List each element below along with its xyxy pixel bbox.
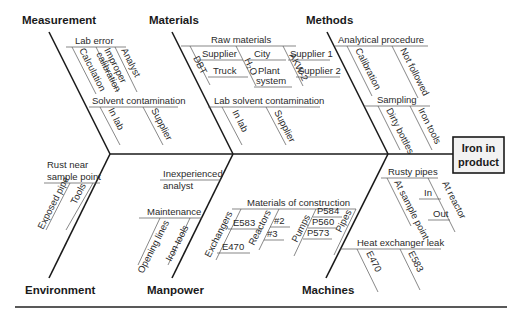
cause-lab-error: Lab error (75, 35, 114, 46)
category-measurement: Measurement (22, 14, 96, 26)
category-machines: Machines (302, 284, 354, 296)
cause-analytical-procedure: Analytical procedure (338, 34, 424, 45)
cause-sampling: Sampling (377, 94, 417, 105)
cause-supplier: Supplier (149, 106, 175, 142)
cause-truck: Truck (213, 65, 237, 76)
cause-out: Out (433, 208, 449, 219)
cause-p584: P584 (317, 205, 339, 216)
cause-sample-point: sample point (47, 171, 101, 182)
cause-rust-near: Rust near (47, 159, 88, 170)
cause-system: system (256, 75, 286, 86)
cause-in-lab: In lab (106, 106, 126, 132)
cause-hx-e583: E583 (406, 249, 426, 274)
fishbone-diagram: Iron in product Measurement Materials Me… (0, 0, 528, 318)
cause-city: City (254, 48, 271, 59)
effect-label-line2: product (458, 156, 499, 168)
cause-rusty-pipes: Rusty pipes (388, 166, 438, 177)
cause-p560: P560 (312, 216, 334, 227)
cause-maintenance: Maintenance (147, 206, 201, 217)
cause-supplier-2: Supplier 2 (298, 65, 341, 76)
cause-dirty-bottles: Dirty bottles (384, 106, 417, 156)
cause-inexperienced: Inexperienced (163, 168, 223, 179)
cause-solvent-contamination: Solvent contamination (92, 95, 185, 106)
cause-raw-materials: Raw materials (211, 34, 271, 45)
cause-lab-solvent-contamination: Lab solvent contamination (214, 95, 324, 106)
cause-reactor-2: #2 (274, 215, 285, 226)
cause-supplier-raw: Supplier (202, 48, 237, 59)
cause-p573: P573 (307, 227, 329, 238)
cause-tools: Tools (68, 181, 88, 206)
cause-in-lab-materials: In lab (230, 108, 250, 134)
cause-opening-lines: Opening lines (135, 218, 171, 275)
cause-e583: E583 (233, 217, 255, 228)
cause-calibration-methods: Calibration (353, 46, 383, 91)
category-environment: Environment (25, 284, 95, 296)
cause-iron-tools-methods: Iron tools (416, 106, 444, 146)
cause-e470: E470 (222, 241, 244, 252)
cause-analyst-manpower: analyst (163, 180, 193, 191)
cause-reactor-3: #3 (267, 228, 278, 239)
cause-not-followed: Not followed (398, 46, 432, 98)
effect-label-line1: Iron in (462, 142, 496, 154)
category-methods: Methods (306, 14, 353, 26)
category-manpower: Manpower (147, 284, 204, 296)
category-materials: Materials (149, 14, 199, 26)
cause-heat-exchanger-leak: Heat exchanger leak (357, 237, 444, 248)
cause-supplier-1: Supplier 1 (290, 48, 333, 59)
cause-in: In (424, 187, 432, 198)
